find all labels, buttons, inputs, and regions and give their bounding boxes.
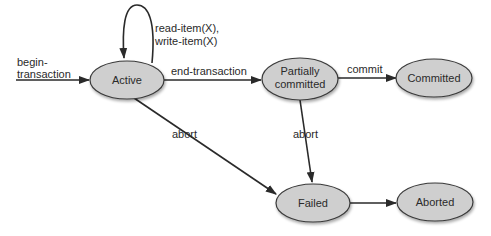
abort-from-partial-label: abort	[293, 128, 318, 140]
state-partially-committed-label-1: Partially	[280, 65, 320, 77]
state-diagram: Active Partially committed Committed Fai…	[0, 0, 491, 236]
state-failed-label: Failed	[298, 197, 328, 209]
abort-from-active-arrow	[134, 98, 276, 194]
self-loop-label-1: read-item(X),	[155, 22, 219, 34]
end-transaction-label: end-transaction	[171, 65, 247, 77]
state-aborted-label: Aborted	[416, 196, 455, 208]
state-partially-committed-label-2: committed	[275, 78, 326, 90]
self-loop-arrow	[123, 5, 153, 63]
state-committed-label: Committed	[407, 72, 460, 84]
self-loop-label-2: write-item(X)	[154, 35, 217, 47]
state-active-label: Active	[112, 74, 142, 86]
commit-label: commit	[347, 63, 382, 75]
abort-from-partial-arrow	[300, 100, 312, 182]
begin-transaction-label-1: begin-	[17, 56, 48, 68]
begin-transaction-label-2: transaction	[17, 68, 71, 80]
abort-from-active-label: abort	[172, 128, 197, 140]
